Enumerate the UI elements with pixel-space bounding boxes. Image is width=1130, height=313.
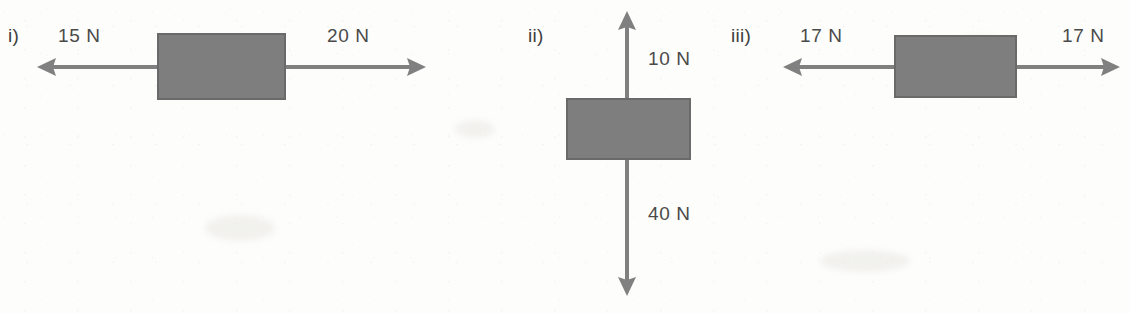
- diagram-label-iii: iii): [731, 26, 751, 45]
- force-label-iii-right: 17 N: [1062, 26, 1105, 45]
- force-diagram-figure: i) 15 N 20 N ii) 10 N 40 N iii) 17: [0, 0, 1130, 313]
- force-label-iii-left: 17 N: [800, 26, 843, 45]
- scan-smudge: [820, 250, 910, 272]
- diagram-label-i: i): [8, 26, 19, 45]
- block-iii: [894, 35, 1017, 98]
- force-label-i-left: 15 N: [58, 26, 101, 45]
- force-label-i-right: 20 N: [327, 26, 370, 45]
- arrow-right-i: [283, 58, 426, 76]
- diagram-label-ii: ii): [528, 26, 544, 45]
- arrow-left-i: [37, 58, 160, 76]
- arrow-right-iii: [1016, 58, 1120, 76]
- arrow-down-ii: [618, 150, 636, 296]
- block-ii: [566, 98, 691, 160]
- scan-smudge: [205, 215, 275, 241]
- block-i: [157, 33, 286, 100]
- arrow-left-iii: [783, 58, 896, 76]
- scan-smudge: [455, 120, 495, 138]
